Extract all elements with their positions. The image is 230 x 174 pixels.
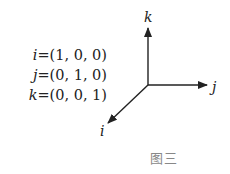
i-axis-label: i [100,123,104,139]
j-axis-label: j [209,79,217,95]
figure-caption: 图三 [150,148,178,167]
k-axis-label: k [144,9,152,25]
axes-diagram: k j i [0,0,230,174]
i-axis-arrow [108,85,148,123]
